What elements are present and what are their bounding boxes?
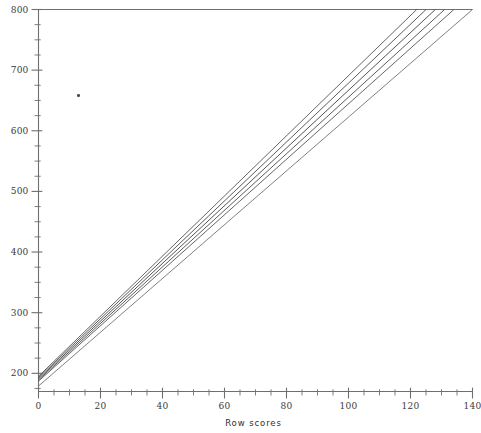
x-tick-label: 0 <box>36 401 42 411</box>
chart-container: 200300400500600700800 020406080100120140… <box>0 0 481 433</box>
axis-ticks <box>32 10 473 399</box>
axis-frame <box>39 10 473 392</box>
x-tick-label: 40 <box>157 401 169 411</box>
series-line-form-2 <box>39 10 427 378</box>
x-tick-label: 20 <box>95 401 107 411</box>
x-tick-label: 120 <box>402 401 420 411</box>
x-tick-label: 140 <box>464 401 481 411</box>
series-line-form-4 <box>39 10 445 380</box>
y-tick-label: 400 <box>2 247 29 257</box>
x-tick-label: 80 <box>281 401 293 411</box>
series-line-form-5 <box>39 10 454 382</box>
x-tick-label: 60 <box>219 401 231 411</box>
series-line-form-6 <box>39 10 473 387</box>
y-tick-label: 600 <box>2 126 29 136</box>
y-tick-label: 700 <box>2 65 29 75</box>
y-tick-label: 200 <box>2 368 29 378</box>
y-tick-label: 800 <box>2 5 29 15</box>
x-axis-title: Row scores <box>225 418 282 428</box>
data-series-lines <box>39 10 473 387</box>
y-tick-label: 300 <box>2 308 29 318</box>
line-chart-plot <box>0 0 481 433</box>
series-line-form-3 <box>39 10 436 379</box>
series-line-form-1 <box>39 10 417 377</box>
y-tick-label: 500 <box>2 186 29 196</box>
x-tick-label: 100 <box>340 401 358 411</box>
